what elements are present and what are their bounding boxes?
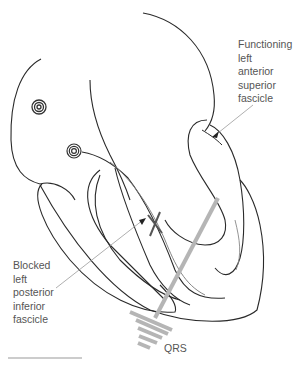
label-line: posterior [13, 286, 54, 300]
heart-outline-top [143, 13, 214, 131]
anterior-fascicle-loop [165, 120, 226, 245]
functioning-fascicle-label: Functioning left anterior superior fasci… [238, 38, 292, 106]
label-line: fascicle [238, 92, 292, 106]
label-line: left [13, 273, 54, 287]
blocked-fascicle-label: Blocked left posterior inferior fascicle [13, 259, 54, 327]
right-atrium-outline [11, 59, 75, 200]
label-line: inferior [13, 300, 54, 314]
right-bundle-inner [95, 175, 180, 300]
qrs-label: QRS [164, 342, 187, 356]
functioning-leader [218, 105, 253, 133]
qrs-vector-line [155, 198, 218, 318]
label-line: anterior [238, 65, 292, 79]
heart-outline-bottom [40, 180, 263, 321]
label-line: left [238, 52, 292, 66]
arrowhead-icon [139, 218, 146, 225]
sa-node-spiral-icon [32, 100, 46, 114]
label-line: Blocked [13, 259, 54, 273]
av-node-spiral-icon [67, 144, 81, 158]
label-line: Functioning [238, 38, 292, 52]
label-line: superior [238, 79, 292, 93]
septum-line [90, 80, 130, 200]
label-line: fascicle [13, 313, 54, 327]
arrowhead-icon [212, 131, 219, 138]
